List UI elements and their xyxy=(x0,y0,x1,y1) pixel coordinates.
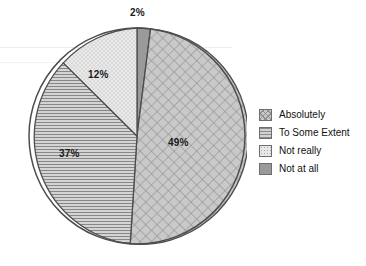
legend-item-absolutely: Absolutely xyxy=(259,106,364,124)
legend-label-to-some-extent: To Some Extent xyxy=(279,127,350,139)
pie-chart-figure: 49% 37% 12% 2% Absolutely To Some Extent… xyxy=(0,0,366,266)
slice-value-absolutely: 49% xyxy=(168,137,189,148)
legend-item-not-at-all: Not at all xyxy=(259,160,364,178)
slice-value-not-really: 12% xyxy=(88,69,109,80)
legend-label-absolutely: Absolutely xyxy=(279,109,325,121)
legend-swatch-solid-icon xyxy=(259,163,272,175)
pie-graphic xyxy=(27,26,247,246)
legend-swatch-crosshatch-icon xyxy=(259,109,272,121)
legend-item-not-really: Not really xyxy=(259,142,364,160)
slice-value-to-some-extent: 37% xyxy=(59,148,80,159)
legend-swatch-horizontal-lines-icon xyxy=(259,127,272,139)
legend-swatch-stipple-icon xyxy=(259,145,272,157)
legend-label-not-at-all: Not at all xyxy=(279,163,318,175)
legend-item-to-some-extent: To Some Extent xyxy=(259,124,364,142)
chart-legend: Absolutely To Some Extent Not really Not… xyxy=(259,106,364,178)
pie-svg xyxy=(27,26,247,246)
slice-value-not-at-all: 2% xyxy=(130,7,145,18)
legend-label-not-really: Not really xyxy=(279,145,321,157)
